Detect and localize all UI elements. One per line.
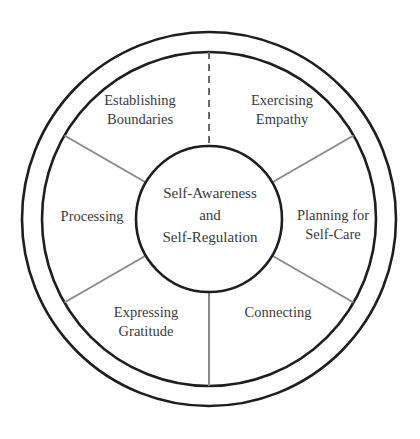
segment-planning-for-self-care: Planning for Self-Care: [297, 206, 369, 244]
center-label: Self-Awareness and Self-Regulation: [163, 182, 258, 248]
spoke-lower-left: [64, 256, 146, 303]
segment-connecting: Connecting: [245, 303, 312, 322]
segment-exercising-empathy: Exercising Empathy: [251, 91, 313, 129]
spoke-lower-right: [272, 256, 354, 303]
spoke-upper-left: [64, 136, 146, 183]
segment-expressing-gratitude: Expressing Gratitude: [114, 303, 178, 341]
spoke-upper-right: [272, 136, 354, 183]
segment-processing: Processing: [61, 207, 124, 226]
segment-establishing-boundaries: Establishing Boundaries: [104, 91, 176, 129]
